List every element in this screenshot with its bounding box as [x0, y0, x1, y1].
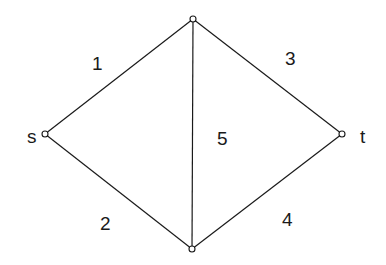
- node-label-s: s: [27, 126, 37, 147]
- edge-top-bottom: [192, 19, 193, 249]
- edge-bottom-t: [192, 134, 342, 249]
- node-t: [339, 131, 345, 137]
- edge-s-top: [45, 19, 193, 134]
- edge-label: 5: [217, 128, 228, 149]
- edge-label: 2: [100, 213, 111, 234]
- edge-label: 3: [285, 48, 296, 69]
- edge-top-t: [193, 19, 342, 134]
- edge-label: 4: [282, 209, 293, 230]
- node-s: [42, 131, 48, 137]
- edge-s-bottom: [45, 134, 192, 249]
- node-top: [190, 16, 196, 22]
- node-bottom: [189, 246, 195, 252]
- network-diagram: 12345 st: [0, 0, 386, 265]
- node-label-t: t: [360, 126, 366, 147]
- edge-label: 1: [92, 53, 103, 74]
